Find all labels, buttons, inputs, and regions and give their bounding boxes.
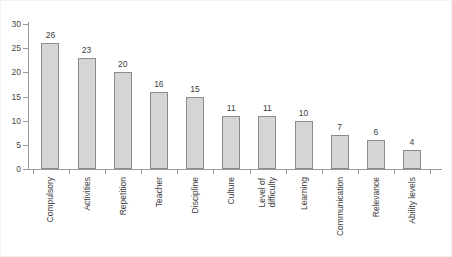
bar-value-label: 6 — [362, 128, 390, 137]
x-category-label: Relevance — [372, 177, 382, 217]
bar-value-label: 15 — [181, 85, 209, 94]
bar-value-label: 10 — [290, 109, 318, 118]
bar-value-label: 4 — [398, 138, 426, 147]
x-tick-mark — [322, 170, 323, 174]
y-tick-label: 15 — [1, 93, 21, 102]
bar — [331, 135, 349, 169]
x-category-label: Repetition — [119, 177, 129, 215]
x-axis-line — [28, 169, 442, 170]
bar-value-label: 23 — [73, 46, 101, 55]
x-category-label: Culture — [227, 177, 237, 204]
bar — [295, 121, 313, 169]
y-tick-label: 5 — [1, 141, 21, 150]
x-category-label: Level of difficulty — [258, 177, 277, 208]
x-category-label: Communication — [336, 177, 346, 236]
x-tick-mark — [141, 170, 142, 174]
bar-value-label: 11 — [217, 104, 245, 113]
bar-value-label: 20 — [109, 60, 137, 69]
x-category-label: Ability levels — [408, 177, 418, 224]
bar — [403, 150, 421, 169]
bar-value-label: 16 — [145, 80, 173, 89]
y-tick-label: 0 — [1, 165, 21, 174]
bar — [222, 116, 240, 169]
y-tick-mark — [23, 169, 28, 170]
x-tick-mark — [358, 170, 359, 174]
x-tick-mark — [33, 170, 34, 174]
x-tick-mark — [213, 170, 214, 174]
y-tick-label: 25 — [1, 44, 21, 53]
bar — [186, 97, 204, 170]
x-tick-mark — [105, 170, 106, 174]
bar-value-label: 26 — [36, 31, 64, 40]
bar — [114, 72, 132, 169]
x-tick-mark — [394, 170, 395, 174]
x-tick-mark — [69, 170, 70, 174]
bar — [150, 92, 168, 169]
y-tick-label: 10 — [1, 117, 21, 126]
bar-value-label: 11 — [253, 104, 281, 113]
x-tick-mark — [250, 170, 251, 174]
bar — [367, 140, 385, 169]
bar — [41, 43, 59, 169]
bar — [258, 116, 276, 169]
bar-chart: 051015202530 CompulsoryActivitiesRepetit… — [0, 0, 452, 257]
bar-value-label: 7 — [326, 123, 354, 132]
y-tick-label: 20 — [1, 68, 21, 77]
x-category-label: Discipline — [191, 177, 201, 213]
x-category-label: Teacher — [155, 177, 165, 207]
x-category-label: Learning — [300, 177, 310, 210]
x-category-label: Compulsory — [46, 177, 56, 222]
x-tick-mark — [286, 170, 287, 174]
x-tick-mark — [430, 170, 431, 174]
x-category-label: Activities — [83, 177, 93, 211]
x-tick-mark — [177, 170, 178, 174]
bar — [78, 58, 96, 169]
y-tick-label: 30 — [1, 20, 21, 29]
